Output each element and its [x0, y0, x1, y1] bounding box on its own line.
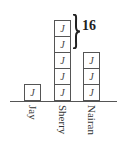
label-jay: Jay	[27, 105, 39, 120]
unit-block: J	[83, 84, 100, 101]
brace-value: 16	[82, 18, 96, 34]
column-jay: J	[24, 84, 41, 101]
label-nairan: Nairan	[86, 105, 98, 135]
column-sherry: JJJJJ	[54, 20, 71, 101]
column-nairan: JJJ	[83, 52, 100, 101]
unit-block: J	[83, 68, 100, 85]
unit-block: J	[54, 68, 71, 85]
curly-brace-icon	[72, 14, 81, 49]
baseline	[10, 101, 117, 102]
unit-block: J	[83, 52, 100, 69]
unit-block: J	[54, 20, 71, 37]
unit-block: J	[54, 36, 71, 53]
unit-block: J	[24, 84, 41, 101]
label-sherry: Sherry	[57, 105, 69, 134]
unit-block: J	[54, 84, 71, 101]
unit-block: J	[54, 52, 71, 69]
